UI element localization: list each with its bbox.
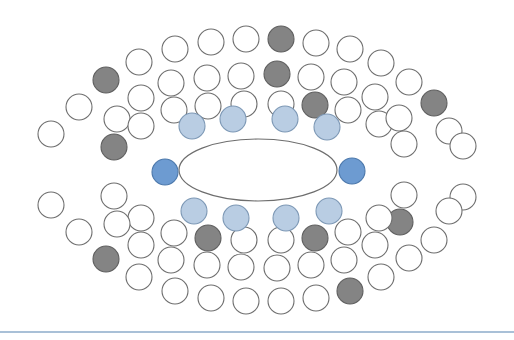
node-circle-mid-19[interactable] — [386, 105, 412, 131]
node-circle-out-9[interactable] — [303, 30, 329, 56]
node-circle-mid-25[interactable] — [335, 219, 361, 245]
node-circle-out-2[interactable] — [66, 94, 92, 120]
node-circle-out-18[interactable] — [421, 227, 447, 253]
node-circle-inner-bottom-3[interactable] — [273, 205, 299, 231]
node-circle-mid-34[interactable] — [194, 252, 220, 278]
node-circle-inner-bottom-4[interactable] — [316, 198, 342, 224]
node-circle-out-30[interactable] — [38, 192, 64, 218]
node-circle-mid-13[interactable] — [298, 64, 324, 90]
elliptical-ring-diagram — [0, 0, 514, 340]
node-circle-out-27[interactable] — [126, 264, 152, 290]
node-circle-mid-1[interactable] — [101, 134, 127, 160]
bottom-divider — [0, 331, 514, 333]
node-circle-out-13[interactable] — [421, 90, 447, 116]
node-circle-inner-top-4[interactable] — [314, 114, 340, 140]
node-circle-out-4[interactable] — [126, 49, 152, 75]
node-circle-mid-17[interactable] — [362, 84, 388, 110]
node-circle-mid-24[interactable] — [362, 232, 388, 258]
node-circle-mid-5[interactable] — [158, 70, 184, 96]
node-circle-out-28[interactable] — [93, 246, 119, 272]
node-circle-out-25[interactable] — [198, 285, 224, 311]
central-ellipse — [179, 139, 337, 201]
node-circle-mid-36[interactable] — [158, 247, 184, 273]
node-circle-mid-33[interactable] — [195, 225, 221, 251]
node-circle-out-21[interactable] — [337, 278, 363, 304]
node-circle-mid-26[interactable] — [331, 247, 357, 273]
node-circle-mid-4[interactable] — [128, 113, 154, 139]
node-circle-inner-right[interactable] — [339, 158, 365, 184]
node-circle-mid-20[interactable] — [391, 131, 417, 157]
node-circle-mid-9[interactable] — [228, 63, 254, 89]
node-circle-mid-3[interactable] — [128, 85, 154, 111]
node-circle-mid-39[interactable] — [104, 211, 130, 237]
node-circle-inner-top-1[interactable] — [179, 113, 205, 139]
node-circle-out-5[interactable] — [162, 36, 188, 62]
node-circle-mid-15[interactable] — [331, 69, 357, 95]
node-circle-mid-37[interactable] — [128, 205, 154, 231]
node-circle-out-17[interactable] — [436, 198, 462, 224]
node-circle-out-22[interactable] — [303, 285, 329, 311]
node-circle-inner-top-3[interactable] — [272, 106, 298, 132]
node-circle-inner-left[interactable] — [152, 159, 178, 185]
node-circle-mid-35[interactable] — [161, 220, 187, 246]
node-circle-out-23[interactable] — [268, 288, 294, 314]
node-circle-mid-28[interactable] — [298, 252, 324, 278]
node-circle-out-10[interactable] — [337, 36, 363, 62]
node-circle-inner-top-2[interactable] — [220, 106, 246, 132]
node-circle-out-19[interactable] — [396, 245, 422, 271]
node-circle-inner-bottom-1[interactable] — [181, 198, 207, 224]
node-circle-out-6[interactable] — [198, 29, 224, 55]
node-circle-mid-7[interactable] — [194, 65, 220, 91]
node-circle-out-1[interactable] — [38, 121, 64, 147]
node-circle-out-29[interactable] — [66, 219, 92, 245]
center-ellipse-group — [179, 139, 337, 201]
node-circle-inner-bottom-2[interactable] — [223, 205, 249, 231]
node-circle-mid-16[interactable] — [335, 97, 361, 123]
node-circle-out-8[interactable] — [268, 26, 294, 52]
node-circle-mid-32[interactable] — [228, 254, 254, 280]
node-circle-mid-40[interactable] — [101, 183, 127, 209]
node-circle-mid-23[interactable] — [366, 205, 392, 231]
node-circle-out-7[interactable] — [233, 26, 259, 52]
diagram-canvas — [0, 0, 514, 340]
node-circle-out-11[interactable] — [368, 50, 394, 76]
node-circle-out-3[interactable] — [93, 67, 119, 93]
node-circle-out-15[interactable] — [450, 133, 476, 159]
node-circle-mid-30[interactable] — [264, 255, 290, 281]
node-circle-mid-11[interactable] — [264, 61, 290, 87]
node-circle-mid-27[interactable] — [302, 225, 328, 251]
node-circle-mid-2[interactable] — [104, 106, 130, 132]
node-circle-mid-21[interactable] — [391, 182, 417, 208]
node-circle-out-20[interactable] — [368, 264, 394, 290]
node-circle-out-12[interactable] — [396, 69, 422, 95]
node-circle-mid-38[interactable] — [128, 232, 154, 258]
node-circle-out-26[interactable] — [162, 278, 188, 304]
node-circle-out-24[interactable] — [233, 288, 259, 314]
